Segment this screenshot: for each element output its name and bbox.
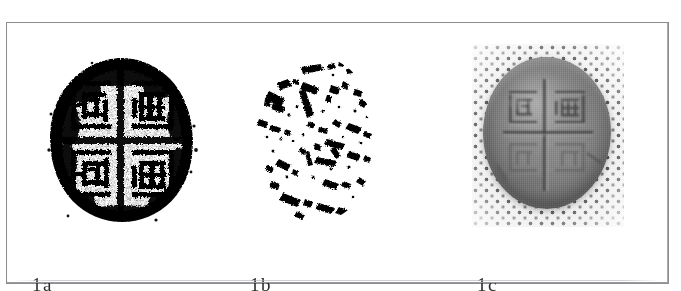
coin-engraving: [483, 57, 611, 209]
panel-label-1b: 1b: [250, 275, 272, 291]
seal-rubbing-1a: [44, 54, 200, 226]
panel-1a-ink-rubbing: [44, 54, 200, 226]
panel-1b-thresholded: [243, 51, 383, 227]
panel-label-1c: 1c: [477, 275, 498, 291]
scan-artifact-line: [15, 280, 660, 281]
seal-threshold-1b: [243, 51, 383, 227]
top-text-bleed: · · · · ·: [0, 0, 681, 9]
seal-coin-object: [483, 57, 611, 209]
panel-1c-photograph: [472, 44, 624, 228]
figure-frame: 1a 1b 1c: [6, 22, 669, 284]
top-bleed-text: · · · · ·: [88, 0, 142, 4]
panel-label-1a: 1a: [32, 275, 53, 291]
seal-photo-1c: [472, 44, 624, 227]
